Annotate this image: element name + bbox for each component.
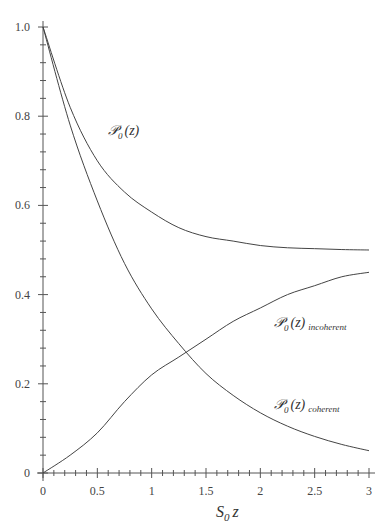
- tick-labels: 00.511.522.5300.20.40.60.81.0: [15, 20, 372, 498]
- x-tick-label: 2.5: [307, 484, 322, 498]
- y-tick-label: 0.8: [15, 109, 30, 123]
- curve-incoherent: [43, 272, 369, 473]
- x-axis-label: S0z: [216, 503, 240, 523]
- x-tick-label: 0: [40, 484, 46, 498]
- y-tick-label: 0: [24, 466, 30, 480]
- x-tick-label: 2: [257, 484, 263, 498]
- label-coherent: 𝒫0(z)coherent: [274, 397, 340, 415]
- y-tick-label: 0.4: [15, 288, 30, 302]
- y-tick-label: 0.2: [15, 377, 30, 391]
- label-total: 𝒫0(z): [108, 123, 140, 141]
- y-tick-label: 1.0: [15, 20, 30, 34]
- y-tick-label: 0.6: [15, 198, 30, 212]
- x-tick-label: 3: [366, 484, 372, 498]
- chart: 00.511.522.5300.20.40.60.81.0 𝒫0(z) 𝒫0(z…: [0, 0, 390, 530]
- x-tick-label: 0.5: [90, 484, 105, 498]
- curve-coherent: [43, 27, 369, 451]
- label-incoherent: 𝒫0(z)incoherent: [274, 315, 347, 333]
- x-tick-label: 1: [149, 484, 155, 498]
- curve-total: [43, 27, 369, 250]
- x-tick-label: 1.5: [199, 484, 214, 498]
